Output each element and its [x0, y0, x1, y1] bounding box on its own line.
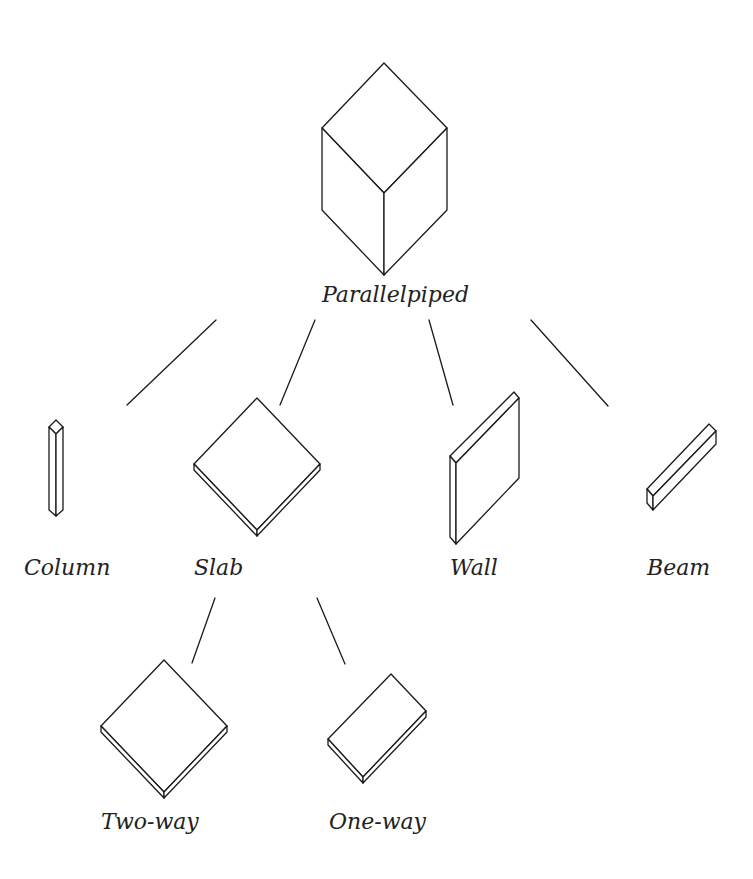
column-icon	[49, 420, 63, 516]
connector-parallelpiped-slab	[280, 320, 315, 405]
label-beam: Beam	[647, 557, 710, 579]
label-wall: Wall	[450, 557, 498, 579]
one-way-slab-icon	[328, 674, 426, 783]
element-hierarchy-diagram	[0, 0, 753, 879]
label-one-way: One-way	[329, 811, 426, 833]
label-two-way: Two-way	[101, 811, 199, 833]
connector-parallelpiped-column	[127, 320, 216, 405]
label-column: Column	[24, 557, 110, 579]
two-way-slab-icon	[101, 660, 227, 798]
connector-slab-two-way	[192, 598, 215, 663]
label-parallelpiped: Parallelpiped	[322, 284, 469, 306]
connector-parallelpiped-beam	[531, 320, 608, 406]
connector-parallelpiped-wall	[429, 320, 453, 405]
wall-icon	[450, 392, 519, 544]
label-slab: Slab	[194, 557, 243, 579]
beam-icon	[647, 424, 716, 510]
cube-icon	[322, 63, 447, 275]
slab-icon	[194, 398, 320, 536]
connector-slab-one-way	[317, 598, 345, 664]
